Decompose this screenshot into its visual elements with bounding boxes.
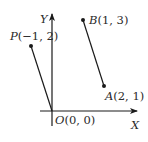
point-p-name: P	[9, 29, 18, 43]
point-b-dot	[81, 18, 85, 22]
diagram-svg: Y X O(0, 0) P(−1, 2) B(1, 3) A(2, 1)	[0, 0, 148, 142]
point-a-label: A(2, 1)	[104, 89, 144, 103]
x-axis-label: X	[130, 118, 140, 132]
coordinate-diagram: Y X O(0, 0) P(−1, 2) B(1, 3) A(2, 1)	[0, 0, 148, 142]
point-b-name: B	[88, 13, 97, 27]
point-p-coords: (−1, 2)	[18, 29, 59, 43]
y-axis-label: Y	[40, 12, 49, 26]
point-a-name: A	[104, 89, 113, 103]
segment-op	[31, 46, 52, 111]
origin-coords: (0, 0)	[64, 113, 95, 127]
segment-ab	[83, 20, 104, 86]
point-a-coords: (2, 1)	[113, 89, 144, 103]
point-a-dot	[102, 84, 106, 88]
point-p-label: P(−1, 2)	[9, 29, 58, 43]
point-b-coords: (1, 3)	[97, 13, 128, 27]
point-b-label: B(1, 3)	[88, 13, 128, 27]
point-p-dot	[29, 44, 33, 48]
origin-label: O(0, 0)	[55, 113, 95, 127]
